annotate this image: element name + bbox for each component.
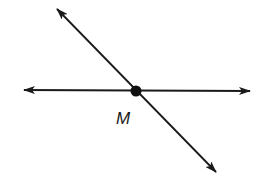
point-label-m: M — [116, 109, 131, 128]
intersecting-lines-diagram: M — [0, 0, 265, 181]
intersection-point-m — [131, 86, 142, 97]
